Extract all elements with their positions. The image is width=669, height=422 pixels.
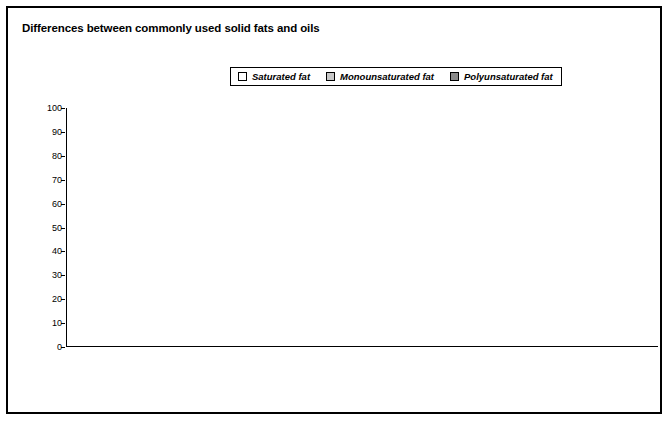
legend-item-saturated: Saturated fat: [238, 71, 310, 82]
legend-swatch-monounsaturated: [326, 72, 335, 81]
y-tick-mark-100: [61, 108, 65, 109]
y-tick-mark-60: [61, 204, 65, 205]
page-title: Differences between commonly used solid …: [22, 22, 320, 34]
y-tick-label-100: 100: [47, 103, 62, 113]
legend-swatch-polyunsaturated: [450, 72, 459, 81]
y-tick-mark-70: [61, 180, 65, 181]
legend-item-polyunsaturated: Polyunsaturated fat: [450, 71, 553, 82]
y-tick-mark-40: [61, 251, 65, 252]
chart-legend: Saturated fatMonounsaturated fatPolyunsa…: [230, 67, 562, 86]
chart-frame: Differences between commonly used solid …: [6, 6, 662, 414]
y-tick-mark-50: [61, 228, 65, 229]
legend-label-monounsaturated: Monounsaturated fat: [340, 71, 434, 82]
y-tick-mark-20: [61, 299, 65, 300]
y-tick-mark-90: [61, 132, 65, 133]
legend-label-polyunsaturated: Polyunsaturated fat: [464, 71, 553, 82]
plot-area: 0102030405060708090100: [66, 108, 658, 347]
legend-item-monounsaturated: Monounsaturated fat: [326, 71, 434, 82]
y-tick-mark-10: [61, 323, 65, 324]
legend-swatch-saturated: [238, 72, 247, 81]
legend-label-saturated: Saturated fat: [252, 71, 310, 82]
y-tick-mark-30: [61, 275, 65, 276]
y-tick-mark-0: [61, 347, 65, 348]
y-tick-mark-80: [61, 156, 65, 157]
